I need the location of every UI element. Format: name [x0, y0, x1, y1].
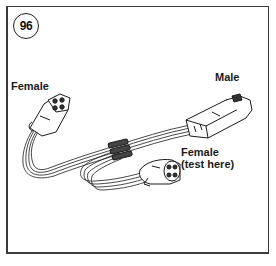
label-male: Male	[215, 71, 239, 83]
label-female-test: Female (test here)	[181, 146, 234, 170]
label-female-test-line2: (test here)	[181, 158, 234, 170]
label-female-left: Female	[11, 80, 49, 92]
label-female-test-line1: Female	[181, 146, 234, 158]
figure-number-badge: 96	[13, 13, 39, 39]
figure-number: 96	[20, 19, 33, 33]
figure-frame	[6, 6, 269, 254]
